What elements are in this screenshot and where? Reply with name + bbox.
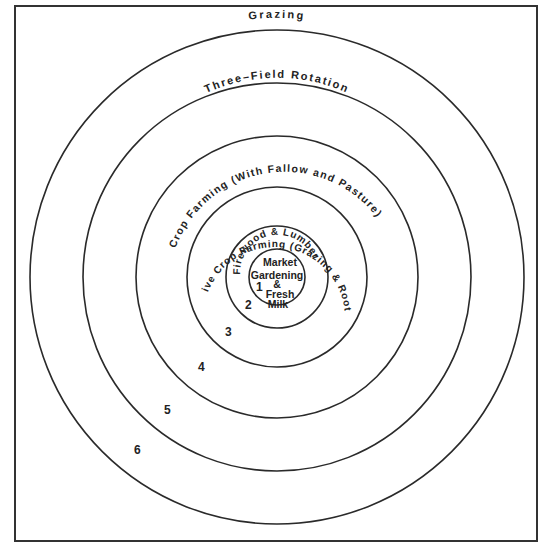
zone-number-3: 3 bbox=[225, 325, 232, 339]
zone-6-label: Grazing bbox=[248, 8, 306, 22]
center-label-line-5: Milk bbox=[268, 298, 289, 310]
zone-number-6: 6 bbox=[134, 443, 141, 457]
zone-numbers: 1 2 3 4 5 6 bbox=[134, 280, 263, 457]
zone-number-1: 1 bbox=[256, 280, 263, 294]
zone-number-2: 2 bbox=[245, 298, 252, 312]
von-thunen-diagram: Grazing Three–Field Rotation Crop Farmin… bbox=[0, 0, 542, 550]
zone-number-4: 4 bbox=[198, 360, 205, 374]
zone-number-5: 5 bbox=[164, 403, 171, 417]
center-label-line-1: Market bbox=[263, 256, 297, 268]
